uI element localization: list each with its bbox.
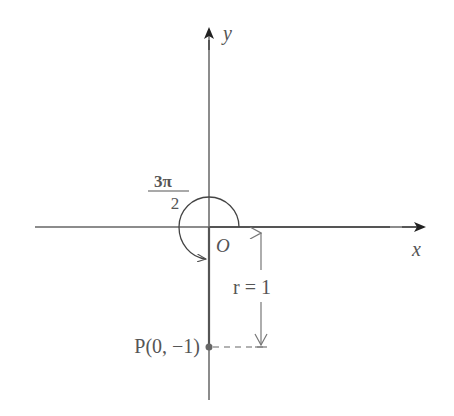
point-p-dot [206,344,213,351]
radius-label: r = 1 [233,276,271,298]
origin-label: O [216,235,230,256]
point-p-label: P(0, −1) [134,335,200,358]
angle-label: 3π 2 [148,172,189,213]
unit-circle-diagram: y x O 3π 2 r = 1 P(0, −1) [0,0,454,416]
angle-label-denominator: 2 [171,194,180,213]
angle-label-numerator: 3π [154,172,173,191]
x-axis-label: x [411,238,421,260]
y-axis-label: y [221,22,232,45]
